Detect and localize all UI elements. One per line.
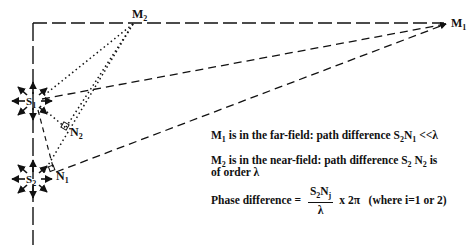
- label-sub: 2: [32, 179, 36, 188]
- formula-where: (where i=1 or 2): [369, 194, 447, 206]
- note-tail: is: [427, 154, 438, 166]
- phase-formula: Phase difference = S2Njλx 2π (where i=1 …: [211, 186, 447, 216]
- formula-prefix: Phase difference =: [211, 194, 304, 206]
- n2-right-angle-marker: [61, 122, 69, 130]
- label-n1: N1: [56, 170, 69, 187]
- label-text: N: [70, 125, 79, 139]
- note-text: is in the near-field: path difference S: [226, 154, 408, 166]
- construction-line: [38, 110, 53, 167]
- label-sub: 1: [462, 23, 466, 32]
- num-n: N: [320, 185, 328, 197]
- label-sub: 1: [65, 176, 69, 185]
- formula-suffix: x 2π: [339, 194, 360, 206]
- label-sub: 2: [143, 14, 147, 23]
- note-n: N: [404, 129, 412, 141]
- note-n: N: [412, 154, 423, 166]
- label-m1: M1: [451, 17, 466, 34]
- label-s1: S1: [26, 95, 36, 112]
- n1-right-angle-marker: [48, 165, 54, 171]
- note-far-field: M1 is in the far-field: path difference …: [211, 130, 438, 145]
- fraction-denominator: λ: [308, 203, 333, 216]
- formula-fraction: S2Njλ: [308, 186, 333, 216]
- far-field-rays: [42, 24, 446, 172]
- label-sub: 1: [32, 101, 36, 110]
- note-m: M: [211, 129, 222, 141]
- num-n-sub: j: [329, 191, 332, 200]
- label-n2: N2: [70, 126, 83, 143]
- label-text: M: [132, 7, 143, 21]
- label-text: N: [56, 169, 65, 183]
- fraction-numerator: S2Nj: [308, 186, 333, 203]
- label-text: M: [451, 16, 462, 30]
- note-m: M: [211, 154, 222, 166]
- note-text: is in the far-field: path difference S: [226, 129, 400, 141]
- label-m2: M2: [132, 8, 147, 25]
- label-sub: 2: [79, 132, 83, 141]
- note-tail: <<λ: [416, 129, 438, 141]
- near-field-rays: [40, 24, 133, 172]
- note-near-field-cont: of order λ: [211, 167, 259, 178]
- label-s2: S2: [26, 173, 36, 190]
